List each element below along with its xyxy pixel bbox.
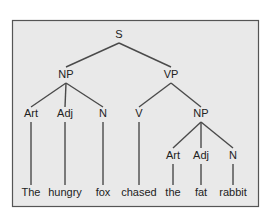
- node-v: V: [135, 107, 143, 119]
- node-np-object: NP: [193, 107, 208, 119]
- node-adj-subject: Adj: [57, 107, 73, 119]
- word-fox: fox: [96, 186, 111, 198]
- syntax-tree-diagram: S NP VP Art Adj N V NP Art Adj N The hun…: [0, 0, 271, 218]
- node-art-subject: Art: [24, 107, 38, 119]
- word-hungry: hungry: [48, 186, 82, 198]
- node-s: S: [115, 28, 122, 40]
- word-fat: fat: [195, 186, 207, 198]
- node-adj-object: Adj: [193, 149, 209, 161]
- node-art-object: Art: [166, 149, 180, 161]
- node-n-subject: N: [99, 107, 107, 119]
- edge-np1-adj1: [65, 83, 66, 107]
- word-the: The: [22, 186, 41, 198]
- node-n-object: N: [229, 149, 237, 161]
- word-rabbit: rabbit: [219, 186, 247, 198]
- node-vp: VP: [164, 68, 179, 80]
- word-chased: chased: [121, 186, 156, 198]
- word-the-object: the: [165, 186, 180, 198]
- node-np-subject: NP: [58, 68, 73, 80]
